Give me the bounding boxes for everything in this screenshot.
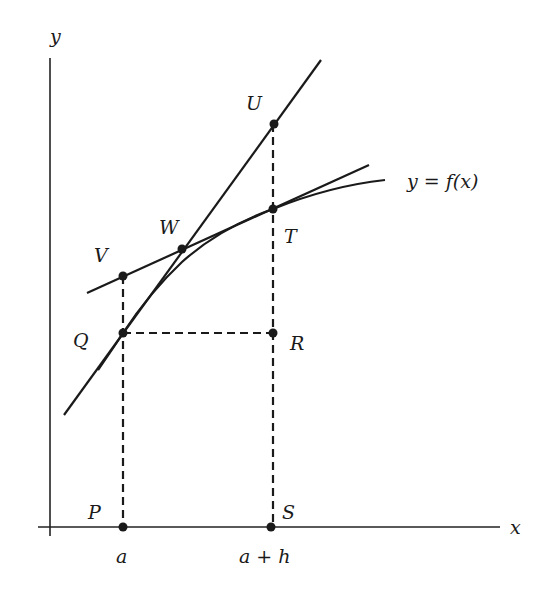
point-V <box>119 272 128 281</box>
label-W: W <box>159 216 180 238</box>
point-P <box>119 523 128 532</box>
x-axis-label: x <box>510 516 521 538</box>
label-U: U <box>246 92 263 114</box>
point-T <box>269 205 278 214</box>
point-Q <box>119 329 128 338</box>
tick-label-a-plus-h: a + h <box>239 545 291 567</box>
point-R <box>269 329 278 338</box>
point-W <box>178 245 187 254</box>
curve-f <box>98 180 385 370</box>
derivative-diagram: y x y = f(x) U W V T Q R P S a a + h <box>0 0 544 598</box>
label-P: P <box>87 501 102 523</box>
label-T: T <box>284 225 298 247</box>
y-axis-label: y <box>49 25 61 47</box>
point-S <box>267 523 276 532</box>
tick-label-a: a <box>116 545 127 567</box>
point-U <box>270 120 279 129</box>
label-V: V <box>94 244 110 266</box>
curve-label: y = f(x) <box>406 170 478 192</box>
label-Q: Q <box>73 329 89 351</box>
label-S: S <box>282 501 295 523</box>
label-R: R <box>289 332 304 354</box>
